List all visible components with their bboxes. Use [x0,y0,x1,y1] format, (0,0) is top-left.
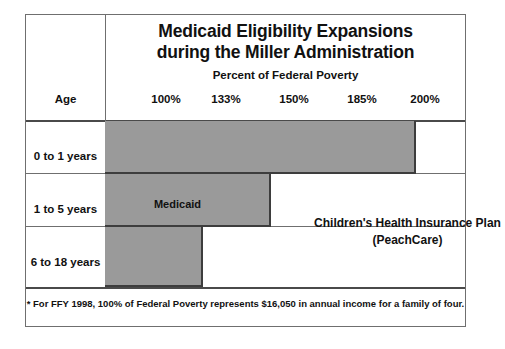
chart-frame: Medicaid Eligibility Expansions during t… [25,14,466,327]
peachcare-label-line-2: (PeachCare) [275,232,505,249]
peachcare-label-line-1: Children's Health Insurance Plan [275,215,505,232]
medicaid-bar-row-2 [105,227,203,287]
x-tick-label-100: 100% [144,93,188,105]
age-row-label-2: 6 to 18 years [26,256,105,268]
chart-title-line-1: Medicaid Eligibility Expansions [106,21,465,42]
age-row-label-0: 0 to 1 years [26,150,105,162]
peachcare-series-label: Children's Health Insurance Plan (PeachC… [275,215,505,249]
chart-subtitle: Percent of Federal Poverty [106,69,465,81]
x-tick-label-133: 133% [204,93,248,105]
x-tick-label-185: 185% [340,93,384,105]
chart-footnote: * For FFY 1998, 100% of Federal Poverty … [26,298,465,309]
medicaid-bar-row-0 [105,121,416,174]
footnote-rule [26,287,465,289]
chart-header: Medicaid Eligibility Expansions during t… [26,15,465,120]
plot-area: Medicaid Children's Health Insurance Pla… [105,121,465,287]
medicaid-series-label: Medicaid [105,198,250,210]
x-tick-label-200: 200% [403,93,447,105]
age-row-label-1: 1 to 5 years [26,203,105,215]
chart-title: Medicaid Eligibility Expansions during t… [106,21,465,63]
chart-title-line-2: during the Miller Administration [106,42,465,63]
x-tick-label-150: 150% [272,93,316,105]
age-column-header: Age [26,93,105,105]
